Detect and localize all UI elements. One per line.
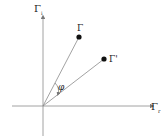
point-gamma-label: Γ bbox=[77, 23, 83, 33]
point-gamma bbox=[76, 34, 81, 39]
angle-label-phi: φ bbox=[58, 82, 65, 92]
phasor-line-gamma bbox=[43, 37, 79, 106]
point-gamma-prime bbox=[101, 56, 106, 61]
phasor-line-gamma-prime bbox=[43, 59, 104, 106]
phasor-diagram: Γi Γr Γ Γ' φ bbox=[0, 0, 168, 138]
vertical-axis-label: Γi bbox=[34, 3, 43, 16]
point-gamma-prime-label: Γ' bbox=[109, 54, 118, 64]
horizontal-axis-label: Γr bbox=[151, 101, 161, 114]
